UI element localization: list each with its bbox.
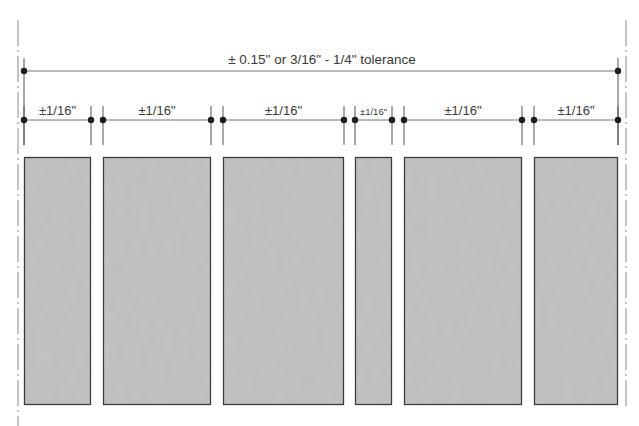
dimension-dot: [220, 117, 226, 123]
dimension-dot: [615, 117, 621, 123]
dimension-dot: [208, 117, 214, 123]
dimension-dot: [519, 117, 525, 123]
dimension-dot: [100, 117, 106, 123]
panel-6-tolerance-label: ±1/16": [557, 104, 594, 117]
panel-texture: [224, 158, 343, 404]
panel-3-tolerance-label: ±1/16": [265, 104, 302, 117]
panel-texture: [405, 158, 521, 404]
panel-2-tolerance-label: ±1/16": [138, 104, 175, 117]
dimension-dot: [341, 117, 347, 123]
panel-texture: [535, 158, 617, 404]
overall-dim-dot-right: [615, 68, 621, 74]
dimension-dot: [401, 117, 407, 123]
dimension-dot: [88, 117, 94, 123]
panel-4-tolerance-label: ±1/16": [360, 107, 387, 117]
dimension-dot: [21, 117, 27, 123]
panel-1-tolerance-label: ±1/16": [39, 104, 76, 117]
overall-dim-dot-left: [21, 68, 27, 74]
panel-dimension-group: [21, 106, 621, 145]
panels-group: [25, 158, 618, 405]
dimension-dot: [531, 117, 537, 123]
dimension-dot: [389, 117, 395, 123]
overall-tolerance-label: ± 0.15" or 3/16" - 1/4" tolerance: [228, 53, 416, 67]
panel-texture: [104, 158, 210, 404]
panel-5-tolerance-label: ±1/16": [444, 104, 481, 117]
dimension-dot: [352, 117, 358, 123]
panel-texture: [356, 158, 391, 404]
panel-texture: [25, 158, 90, 404]
